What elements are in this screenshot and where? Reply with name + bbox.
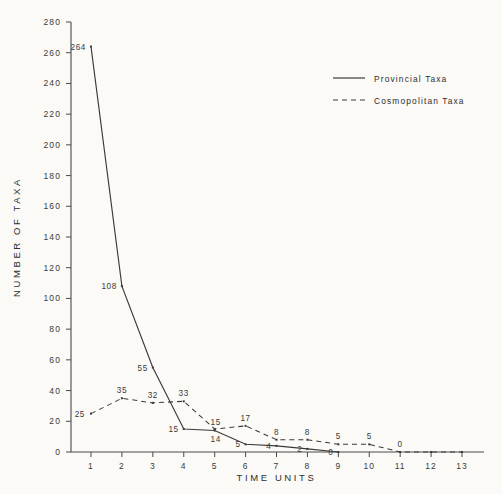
x-tick-label: 5 (212, 461, 218, 471)
x-tick-label: 8 (305, 461, 311, 471)
data-label-group: 264108551514542025353233151788550 (71, 43, 403, 457)
y-tick-label: 220 (44, 109, 61, 119)
chart-figure: 020406080100120140160180200220240260280 … (0, 0, 502, 494)
data-point-label: 2 (297, 445, 302, 454)
y-tick-label: 60 (49, 355, 61, 365)
data-point (152, 402, 154, 404)
legend-label-2: Cosmopolitan Taxa (374, 96, 465, 106)
legend-label-1: Provincial Taxa (374, 74, 447, 84)
data-point (368, 443, 370, 445)
data-point-label: 4 (266, 442, 271, 451)
x-tick-label: 3 (150, 461, 156, 471)
data-point-label: 15 (168, 425, 178, 434)
data-point-label: 5 (336, 432, 341, 441)
data-point-label: 5 (367, 432, 372, 441)
x-tick-label: 9 (335, 461, 341, 471)
x-tick-label: 6 (243, 461, 249, 471)
data-point-label: 108 (101, 282, 116, 291)
axis-lines (71, 22, 484, 452)
x-tick-label: 7 (274, 461, 280, 471)
y-tick-label: 200 (44, 140, 61, 150)
data-point (121, 285, 123, 287)
data-point (121, 397, 123, 399)
legend-group: Provincial TaxaCosmopolitan Taxa (333, 74, 465, 106)
x-tick-label: 11 (395, 461, 406, 471)
data-point-label: 0 (328, 448, 333, 457)
x-tick-label: 1 (88, 461, 94, 471)
series-line-1 (91, 47, 338, 452)
y-tick-label: 80 (49, 324, 61, 334)
y-axis-title: NUMBER OF TAXA (11, 177, 22, 297)
data-point (90, 413, 92, 415)
data-point-label: 17 (240, 414, 250, 423)
data-point-label: 0 (398, 440, 403, 449)
data-point-label: 14 (211, 435, 221, 444)
x-tick-label: 2 (119, 461, 125, 471)
y-tick-label: 0 (55, 447, 61, 457)
data-point (430, 451, 432, 453)
data-point (90, 46, 92, 48)
data-point-label: 264 (71, 43, 86, 52)
data-point (399, 451, 401, 453)
data-point (152, 367, 154, 369)
data-point (183, 400, 185, 402)
data-point-label: 32 (148, 391, 158, 400)
x-tick-label: 4 (181, 461, 187, 471)
data-point (245, 443, 247, 445)
data-point (214, 428, 216, 430)
data-point-label: 8 (274, 428, 279, 437)
series-line-2 (91, 398, 462, 452)
data-point-label: 35 (117, 386, 127, 395)
y-tick-label: 280 (44, 17, 61, 27)
y-tick-label: 120 (44, 263, 61, 273)
data-point-label: 25 (75, 410, 85, 419)
x-tick-label: 13 (456, 461, 468, 471)
y-tick-label: 20 (49, 416, 61, 426)
series-group (90, 46, 463, 453)
x-tick-label: 10 (363, 461, 375, 471)
y-tick-label: 180 (44, 171, 61, 181)
data-point (461, 451, 463, 453)
data-point-label: 33 (179, 389, 189, 398)
line-chart-canvas: 020406080100120140160180200220240260280 … (0, 0, 502, 494)
y-tick-label: 160 (44, 201, 61, 211)
data-point-label: 5 (235, 440, 240, 449)
data-point (306, 448, 308, 450)
x-axis-title: TIME UNITS (237, 472, 317, 483)
data-point-label: 55 (138, 364, 148, 373)
data-point (183, 428, 185, 430)
x-tick-group: 12345678910111213 (88, 452, 468, 471)
data-point-label: 15 (211, 418, 221, 427)
data-point (306, 439, 308, 441)
y-tick-label: 40 (49, 386, 61, 396)
y-tick-group: 020406080100120140160180200220240260280 (44, 17, 71, 457)
x-tick-label: 12 (425, 461, 437, 471)
data-point (337, 451, 339, 453)
y-tick-label: 100 (44, 293, 61, 303)
y-tick-label: 240 (44, 78, 61, 88)
data-point (276, 445, 278, 447)
data-point (337, 443, 339, 445)
y-tick-label: 260 (44, 48, 61, 58)
axes-group (71, 22, 484, 452)
data-point-label: 8 (305, 428, 310, 437)
data-point (245, 425, 247, 427)
y-tick-label: 140 (44, 232, 61, 242)
data-point (276, 439, 278, 441)
